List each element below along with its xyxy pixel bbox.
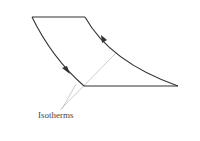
arrow-up-icon <box>101 35 107 43</box>
isotherms-label: Isotherms <box>38 110 74 120</box>
arrow-down-icon <box>62 66 70 74</box>
isotherm-line-2 <box>62 84 76 109</box>
isotherm-line-1 <box>60 53 116 110</box>
thermodynamic-cycle-diagram <box>0 0 200 141</box>
left-curve <box>32 17 84 86</box>
right-curve <box>85 17 178 86</box>
